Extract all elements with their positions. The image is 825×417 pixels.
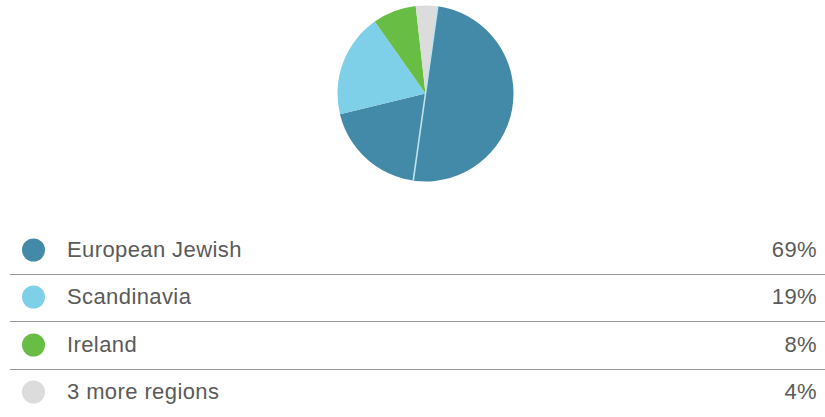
legend-label: Scandinavia [67,284,191,310]
legend-value: 4% [784,379,817,405]
legend-swatch-european-jewish [22,238,45,261]
pie-chart-graphic [336,4,515,183]
legend-divider [10,274,825,275]
ethnicity-pie-chart: European Jewish 69% Scandinavia 19% Irel… [0,0,825,417]
legend-swatch-scandinavia [22,286,45,309]
legend-row[interactable]: Scandinavia 19% [0,274,825,322]
legend-value: 19% [772,284,817,310]
legend-row[interactable]: 3 more regions 4% [0,369,825,417]
legend: European Jewish 69% Scandinavia 19% Irel… [0,226,825,416]
pie-svg [336,4,515,183]
legend-swatch-ireland [22,333,45,356]
legend-divider [10,369,825,370]
legend-divider [10,321,825,322]
legend-value: 8% [784,332,817,358]
legend-label: Ireland [67,332,137,358]
legend-value: 69% [772,237,817,263]
legend-row[interactable]: European Jewish 69% [0,226,825,274]
legend-label: 3 more regions [67,379,219,405]
legend-row[interactable]: Ireland 8% [0,321,825,369]
legend-swatch-three-more-regions [22,381,45,404]
legend-label: European Jewish [67,237,242,263]
